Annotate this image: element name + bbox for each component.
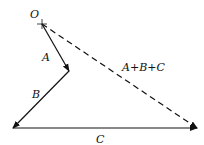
origin-label: O — [30, 8, 39, 21]
vector-a-label: A — [41, 51, 50, 64]
vector-diagram-svg: O A B C A+B+C — [0, 0, 204, 145]
vector-diagram: O A B C A+B+C — [0, 0, 204, 145]
vector-b-arrow — [13, 71, 69, 128]
vector-c-label: C — [96, 133, 105, 145]
vector-b-label: B — [31, 88, 40, 101]
resultant-label: A+B+C — [121, 61, 165, 74]
resultant-arrow — [42, 24, 197, 128]
